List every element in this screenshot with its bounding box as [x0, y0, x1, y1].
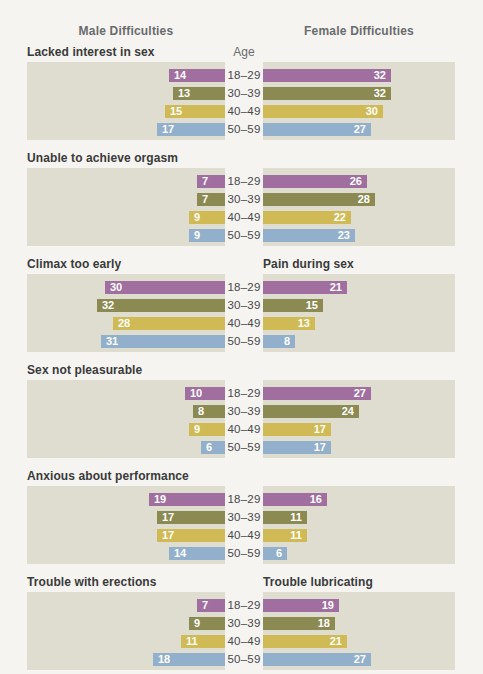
- age-group-label: 18–29: [225, 493, 263, 506]
- age-group-label: 50–59: [225, 653, 263, 666]
- bar-value-label: 26: [345, 175, 367, 188]
- female-bar-panel: 32323027: [263, 62, 455, 140]
- female-bar-row: 16: [263, 493, 455, 506]
- bar-value-label: 9: [189, 229, 205, 242]
- female-bar-50-59: 27: [263, 123, 371, 136]
- section-chart-row: 10896 18–2930–3940–4950–59 27241717: [27, 380, 455, 458]
- male-section-label: Climax too early: [27, 257, 225, 271]
- female-bar-40-49: 22: [263, 211, 351, 224]
- male-bar-18-29: 14: [169, 69, 225, 82]
- section-chart-row: 791118 18–2930–3940–4950–59 19182127: [27, 592, 455, 670]
- age-group-label: 30–39: [225, 511, 263, 524]
- chart-section-6: Trouble with erections Trouble lubricati…: [27, 575, 455, 670]
- age-group-label: 50–59: [225, 123, 263, 136]
- bar-value-label: 32: [97, 299, 119, 312]
- chart-section-2: Unable to achieve orgasm 7799 18–2930–39…: [27, 151, 455, 246]
- female-bar-18-29: 27: [263, 387, 371, 400]
- column-headers-row: Male Difficulties Female Difficulties: [27, 24, 455, 38]
- bar-value-label: 11: [285, 511, 307, 524]
- male-bar-50-59: 6: [201, 441, 225, 454]
- section-label-row: Climax too early Pain during sex: [27, 257, 455, 271]
- bar-value-label: 19: [317, 599, 339, 612]
- male-bar-row: 9: [27, 423, 225, 436]
- female-bar-row: 17: [263, 441, 455, 454]
- bar-value-label: 6: [201, 441, 217, 454]
- male-bar-50-59: 18: [153, 653, 225, 666]
- male-bar-30-39: 7: [197, 193, 225, 206]
- female-bar-30-39: 11: [263, 511, 307, 524]
- bar-value-label: 11: [181, 635, 203, 648]
- female-bar-row: 30: [263, 105, 455, 118]
- section-label-row: Anxious about performance: [27, 469, 455, 483]
- section-label-row: Unable to achieve orgasm: [27, 151, 455, 165]
- female-bar-row: 27: [263, 653, 455, 666]
- male-section-label: Sex not pleasurable: [27, 363, 225, 377]
- bar-value-label: 30: [361, 105, 383, 118]
- age-group-label: 30–39: [225, 87, 263, 100]
- male-bar-row: 15: [27, 105, 225, 118]
- bar-value-label: 21: [325, 635, 347, 648]
- female-difficulties-header: Female Difficulties: [263, 24, 455, 38]
- section-label-row: Sex not pleasurable: [27, 363, 455, 377]
- bar-value-label: 15: [301, 299, 323, 312]
- bar-value-label: 27: [349, 653, 371, 666]
- bar-value-label: 27: [349, 123, 371, 136]
- age-group-label: 30–39: [225, 405, 263, 418]
- male-bar-row: 8: [27, 405, 225, 418]
- male-bar-panel: 791118: [27, 592, 225, 670]
- female-bar-30-39: 15: [263, 299, 323, 312]
- chart-section-1: Lacked interest in sex Age 14131517 18–2…: [27, 45, 455, 140]
- female-bar-30-39: 18: [263, 617, 335, 630]
- age-group-label: 40–49: [225, 317, 263, 330]
- male-bar-panel: 7799: [27, 168, 225, 246]
- female-bar-row: 13: [263, 317, 455, 330]
- female-bar-50-59: 17: [263, 441, 331, 454]
- age-group-label: 40–49: [225, 105, 263, 118]
- female-bar-18-29: 21: [263, 281, 347, 294]
- male-bar-50-59: 9: [189, 229, 225, 242]
- male-bar-40-49: 15: [165, 105, 225, 118]
- male-bar-row: 6: [27, 441, 225, 454]
- female-bar-row: 8: [263, 335, 455, 348]
- bar-value-label: 31: [101, 335, 123, 348]
- female-bar-panel: 1611116: [263, 486, 455, 564]
- bar-value-label: 19: [149, 493, 171, 506]
- female-bar-40-49: 21: [263, 635, 347, 648]
- male-bar-30-39: 32: [97, 299, 225, 312]
- header-spacer: [225, 24, 263, 38]
- age-group-label: 40–49: [225, 529, 263, 542]
- male-section-label: Unable to achieve orgasm: [27, 151, 225, 165]
- section-chart-row: 30322831 18–2930–3940–4950–59 2115138: [27, 274, 455, 352]
- bar-value-label: 9: [189, 423, 205, 436]
- infographic-page: Male Difficulties Female Difficulties La…: [0, 0, 483, 674]
- bar-value-label: 28: [353, 193, 375, 206]
- male-bar-40-49: 17: [157, 529, 225, 542]
- bar-value-label: 28: [113, 317, 135, 330]
- age-group-label: 40–49: [225, 423, 263, 436]
- female-bar-row: 21: [263, 635, 455, 648]
- male-bar-row: 7: [27, 599, 225, 612]
- female-bar-50-59: 8: [263, 335, 295, 348]
- age-group-label: 18–29: [225, 599, 263, 612]
- male-bar-40-49: 28: [113, 317, 225, 330]
- bar-value-label: 24: [337, 405, 359, 418]
- male-bar-30-39: 8: [193, 405, 225, 418]
- age-group-label: 18–29: [225, 69, 263, 82]
- age-group-label: 18–29: [225, 387, 263, 400]
- bar-value-label: 32: [369, 87, 391, 100]
- section-chart-row: 14131517 18–2930–3940–4950–59 32323027: [27, 62, 455, 140]
- age-group-label: 30–39: [225, 193, 263, 206]
- bar-value-label: 6: [271, 547, 287, 560]
- female-bar-18-29: 32: [263, 69, 391, 82]
- age-group-label: 18–29: [225, 175, 263, 188]
- female-bar-50-59: 27: [263, 653, 371, 666]
- male-bar-row: 9: [27, 229, 225, 242]
- bar-value-label: 18: [153, 653, 175, 666]
- male-bar-40-49: 9: [189, 423, 225, 436]
- female-bar-row: 28: [263, 193, 455, 206]
- bar-value-label: 10: [185, 387, 207, 400]
- male-bar-50-59: 31: [101, 335, 225, 348]
- female-bar-row: 17: [263, 423, 455, 436]
- bar-value-label: 32: [369, 69, 391, 82]
- age-group-label: 40–49: [225, 635, 263, 648]
